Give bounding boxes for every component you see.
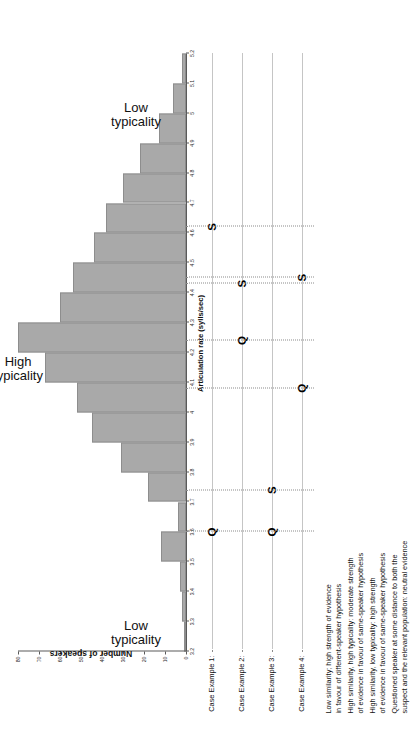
- case-description: Low similarity; high strength of evidenc…: [324, 463, 344, 713]
- marker-guide-line: [186, 530, 314, 531]
- case-description: High similarity, high typicality: modera…: [346, 463, 366, 713]
- y-tick-label: 10: [162, 656, 168, 671]
- case-row-baseline: [212, 53, 213, 651]
- histogram-bar: [60, 292, 186, 322]
- annotation-low-typicality-right: Lowtypicality: [111, 100, 161, 128]
- histogram-bar: [140, 143, 186, 173]
- marker-guide-line: [186, 489, 314, 490]
- marker-guide-line: [186, 276, 314, 277]
- marker-guide-line: [186, 339, 314, 340]
- histogram-bar: [92, 412, 187, 442]
- annotation-high-typicality: Hightypicality: [0, 354, 43, 382]
- marker-guide-line: [186, 387, 314, 388]
- histogram-bar: [106, 203, 186, 233]
- case-examples-band: Case Example 1:QSCase Example 2:QSCase E…: [186, 53, 314, 651]
- histogram-bar: [77, 382, 186, 412]
- histogram-bar: [45, 352, 186, 382]
- histogram-bar: [121, 442, 186, 472]
- y-tick-label: 80: [15, 656, 21, 671]
- histogram-bar: [161, 531, 186, 561]
- case-descriptions: Low similarity; high strength of evidenc…: [316, 53, 412, 651]
- histogram-bar: [123, 173, 186, 203]
- histogram-bar: [173, 83, 186, 113]
- case-row-baseline: [272, 53, 273, 651]
- marker-guide-line: [186, 282, 314, 283]
- marker-guide-line: [186, 225, 314, 226]
- histogram-plot: 01020304050607080 3.23.33.43.53.63.73.83…: [18, 53, 186, 651]
- histogram-bar: [73, 262, 186, 292]
- plot-area: 01020304050607080 3.23.33.43.53.63.73.83…: [18, 53, 186, 651]
- histogram-bar: [178, 502, 186, 532]
- case-example-label: Case Example 1:: [207, 655, 216, 725]
- histogram-bar: [94, 232, 186, 262]
- figure-rotation-wrapper: 01020304050607080 3.23.33.43.53.63.73.83…: [0, 0, 420, 747]
- case-example-label: Case Example 3:: [267, 655, 276, 725]
- histogram-bar: [18, 322, 186, 352]
- histogram-bar: [148, 472, 186, 502]
- y-axis-title: Number of speakers: [31, 648, 151, 658]
- annotation-low-typicality-left: Lowtypicality: [111, 618, 161, 646]
- case-example-label: Case Example 4:: [297, 655, 306, 725]
- figure-canvas: 01020304050607080 3.23.33.43.53.63.73.83…: [0, 0, 420, 747]
- case-row-baseline: [242, 53, 243, 651]
- case-row-baseline: [302, 53, 303, 651]
- case-description: Questioned speaker at some distance to b…: [390, 463, 410, 713]
- histogram-bar: [159, 113, 186, 143]
- case-description: High similarity, low typicality: high st…: [368, 463, 388, 713]
- case-example-label: Case Example 2:: [237, 655, 246, 725]
